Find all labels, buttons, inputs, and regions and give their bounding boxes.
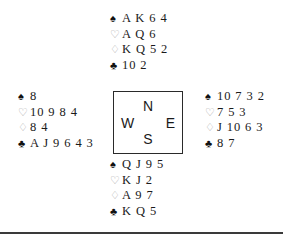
south-diamonds-row: ♢ A 9 7 xyxy=(110,188,164,204)
compass-box: N W E S xyxy=(113,91,183,154)
east-diamonds-row: ♢ J 10 6 3 xyxy=(205,120,265,136)
west-diamonds-cards: 8 4 xyxy=(30,120,48,136)
west-spades-row: ♠ 8 xyxy=(18,89,94,105)
south-diamonds-cards: A 9 7 xyxy=(122,188,154,204)
north-spades-cards: A K 6 4 xyxy=(122,11,168,27)
spade-icon: ♠ xyxy=(110,157,121,173)
compass-label-north: N xyxy=(143,99,153,113)
north-hearts-row: ♡ A Q 6 xyxy=(110,27,168,43)
south-spades-cards: Q J 9 5 xyxy=(122,157,164,173)
heart-icon: ♡ xyxy=(205,105,216,121)
north-clubs-row: ♣ 10 2 xyxy=(110,58,168,74)
spade-icon: ♠ xyxy=(110,11,121,27)
spade-icon: ♠ xyxy=(205,89,216,105)
club-icon: ♣ xyxy=(110,204,121,220)
west-hearts-cards: 10 9 8 4 xyxy=(30,105,78,121)
north-spades-row: ♠ A K 6 4 xyxy=(110,11,168,27)
hand-east: ♠ 10 7 3 2 ♡ 7 5 3 ♢ J 10 6 3 ♣ 8 7 xyxy=(205,89,265,151)
west-clubs-row: ♣ A J 9 6 4 3 xyxy=(18,136,94,152)
bottom-divider xyxy=(0,232,283,234)
diamond-icon: ♢ xyxy=(110,42,121,58)
west-spades-cards: 8 xyxy=(30,89,37,105)
heart-icon: ♡ xyxy=(18,105,29,121)
north-diamonds-cards: K Q 5 2 xyxy=(122,42,168,58)
east-clubs-cards: 8 7 xyxy=(217,136,235,152)
south-clubs-cards: K Q 5 xyxy=(122,204,157,220)
hand-south: ♠ Q J 9 5 ♡ K J 2 ♢ A 9 7 ♣ K Q 5 xyxy=(110,157,164,219)
east-spades-row: ♠ 10 7 3 2 xyxy=(205,89,265,105)
south-clubs-row: ♣ K Q 5 xyxy=(110,204,164,220)
compass-label-west: W xyxy=(121,116,134,130)
north-clubs-cards: 10 2 xyxy=(122,58,147,74)
diamond-icon: ♢ xyxy=(205,120,216,136)
east-hearts-row: ♡ 7 5 3 xyxy=(205,105,265,121)
east-spades-cards: 10 7 3 2 xyxy=(217,89,265,105)
compass-label-east: E xyxy=(166,116,175,130)
north-diamonds-row: ♢ K Q 5 2 xyxy=(110,42,168,58)
club-icon: ♣ xyxy=(205,136,216,152)
north-hearts-cards: A Q 6 xyxy=(122,27,156,43)
south-spades-row: ♠ Q J 9 5 xyxy=(110,157,164,173)
diamond-icon: ♢ xyxy=(18,120,29,136)
compass-label-south: S xyxy=(143,132,152,146)
heart-icon: ♡ xyxy=(110,173,121,189)
bridge-hand-diagram: ♠ A K 6 4 ♡ A Q 6 ♢ K Q 5 2 ♣ 10 2 ♠ 8 ♡… xyxy=(0,0,283,241)
hand-north: ♠ A K 6 4 ♡ A Q 6 ♢ K Q 5 2 ♣ 10 2 xyxy=(110,11,168,73)
club-icon: ♣ xyxy=(110,58,121,74)
diamond-icon: ♢ xyxy=(110,188,121,204)
east-diamonds-cards: J 10 6 3 xyxy=(217,120,263,136)
hand-west: ♠ 8 ♡ 10 9 8 4 ♢ 8 4 ♣ A J 9 6 4 3 xyxy=(18,89,94,151)
east-hearts-cards: 7 5 3 xyxy=(217,105,247,121)
east-clubs-row: ♣ 8 7 xyxy=(205,136,265,152)
spade-icon: ♠ xyxy=(18,89,29,105)
heart-icon: ♡ xyxy=(110,27,121,43)
west-diamonds-row: ♢ 8 4 xyxy=(18,120,94,136)
club-icon: ♣ xyxy=(18,136,29,152)
south-hearts-cards: K J 2 xyxy=(122,173,153,189)
west-clubs-cards: A J 9 6 4 3 xyxy=(30,136,94,152)
south-hearts-row: ♡ K J 2 xyxy=(110,173,164,189)
west-hearts-row: ♡ 10 9 8 4 xyxy=(18,105,94,121)
